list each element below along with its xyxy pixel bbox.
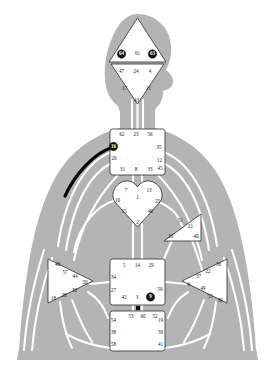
gate-14-label: 14	[135, 262, 141, 268]
gate-1[interactable]: 1	[136, 194, 139, 200]
gate-42-label: 42	[121, 294, 127, 300]
gate-55[interactable]: 55	[207, 293, 213, 299]
gate-20-label: 20	[111, 155, 117, 161]
gate-15[interactable]: 15	[121, 208, 127, 214]
gate-31[interactable]: 31	[120, 166, 126, 172]
gate-61[interactable]: 61	[135, 50, 141, 56]
bodygraph-chart: 6461634724417114362235616352012453183371…	[0, 0, 275, 386]
gate-33-label: 33	[147, 166, 153, 172]
gate-35-label: 35	[156, 144, 162, 150]
gate-47[interactable]: 47	[119, 68, 125, 74]
gate-19[interactable]: 19	[158, 317, 164, 323]
gate-54[interactable]: 54	[111, 317, 117, 323]
gate-51[interactable]: 51	[178, 217, 184, 223]
gate-42[interactable]: 42	[121, 294, 127, 300]
gate-21[interactable]: 21	[188, 223, 194, 229]
gate-33[interactable]: 33	[147, 166, 153, 172]
gate-9[interactable]: 9	[146, 293, 154, 301]
gate-3-label: 3	[136, 294, 139, 300]
gate-11-label: 11	[146, 85, 151, 91]
gate-36[interactable]: 36	[216, 261, 222, 267]
gate-47-label: 47	[119, 68, 125, 74]
gate-54-label: 54	[111, 317, 117, 323]
gate-56[interactable]: 56	[147, 131, 153, 137]
gate-57-label: 57	[62, 269, 68, 275]
gate-12[interactable]: 12	[157, 157, 163, 163]
gate-44[interactable]: 44	[72, 273, 78, 279]
gate-57[interactable]: 57	[62, 269, 68, 275]
gate-28-label: 28	[61, 292, 67, 298]
gate-14[interactable]: 14	[135, 262, 141, 268]
gate-7-label: 7	[125, 187, 128, 193]
gate-27-label: 27	[111, 287, 117, 293]
gate-40[interactable]: 40	[193, 233, 199, 239]
gate-10-label: 10	[115, 197, 121, 203]
gate-58[interactable]: 58	[111, 341, 117, 347]
gate-34[interactable]: 34	[111, 274, 117, 280]
gate-26[interactable]: 26	[168, 233, 174, 239]
gate-46[interactable]: 46	[148, 208, 154, 214]
gate-18-label: 18	[51, 295, 57, 301]
gate-50[interactable]: 50	[82, 279, 88, 285]
gate-23-label: 23	[133, 131, 139, 137]
gate-17[interactable]: 17	[122, 85, 128, 91]
gate-39-label: 39	[158, 329, 164, 335]
gate-39[interactable]: 39	[158, 329, 164, 335]
gate-44-label: 44	[72, 273, 78, 279]
gate-37[interactable]: 37	[196, 273, 202, 279]
gate-45-label: 45	[157, 165, 163, 171]
gate-49[interactable]: 49	[200, 285, 206, 291]
gate-15-label: 15	[121, 208, 127, 214]
gate-11[interactable]: 11	[146, 85, 151, 91]
gate-41[interactable]: 41	[158, 341, 164, 347]
gate-4[interactable]: 4	[149, 68, 152, 74]
gate-53[interactable]: 53	[128, 313, 134, 319]
gate-20[interactable]: 20	[111, 155, 117, 161]
gate-64[interactable]: 64	[117, 50, 125, 58]
gate-29[interactable]: 29	[148, 262, 154, 268]
gate-2[interactable]: 2	[136, 219, 139, 225]
gate-41-label: 41	[158, 341, 164, 347]
gate-32[interactable]: 32	[72, 287, 78, 293]
gate-17-label: 17	[122, 85, 128, 91]
gate-16[interactable]: 16	[109, 142, 117, 150]
gate-28[interactable]: 28	[61, 292, 67, 298]
gate-23[interactable]: 23	[133, 131, 139, 137]
gate-38[interactable]: 38	[111, 329, 117, 335]
gate-7[interactable]: 7	[125, 187, 128, 193]
gate-60-label: 60	[140, 313, 146, 319]
gate-62[interactable]: 62	[119, 131, 125, 137]
gate-27[interactable]: 27	[111, 287, 117, 293]
gate-2-label: 2	[136, 219, 139, 225]
gate-35[interactable]: 35	[156, 144, 162, 150]
gate-18[interactable]: 18	[51, 295, 57, 301]
gate-24[interactable]: 24	[133, 68, 139, 74]
gate-5[interactable]: 5	[123, 262, 126, 268]
gate-62-label: 62	[119, 131, 125, 137]
gate-37-label: 37	[196, 273, 202, 279]
gate-8[interactable]: 8	[135, 166, 138, 172]
gate-58-label: 58	[111, 341, 117, 347]
gate-3[interactable]: 3	[136, 294, 139, 300]
gate-4-label: 4	[149, 68, 152, 74]
gate-45[interactable]: 45	[157, 165, 163, 171]
gate-5-label: 5	[123, 262, 126, 268]
gate-10[interactable]: 10	[115, 197, 121, 203]
gate-9-label: 9	[149, 293, 152, 299]
gate-13[interactable]: 13	[146, 187, 152, 193]
gate-6[interactable]: 6	[188, 281, 191, 287]
gate-60[interactable]: 60	[140, 313, 146, 319]
gate-43[interactable]: 43	[134, 97, 140, 103]
gate-22[interactable]: 22	[205, 268, 211, 274]
gate-63[interactable]: 63	[148, 50, 156, 58]
gate-48[interactable]: 48	[55, 261, 61, 267]
gate-59-label: 59	[157, 286, 163, 292]
gate-25[interactable]: 25	[155, 198, 161, 204]
gate-59[interactable]: 59	[157, 286, 163, 292]
gate-26-label: 26	[168, 233, 174, 239]
gate-22-label: 22	[205, 268, 211, 274]
gate-55-label: 55	[207, 293, 213, 299]
gate-50-label: 50	[82, 279, 88, 285]
gate-30[interactable]: 30	[217, 297, 223, 303]
gate-12-label: 12	[157, 157, 163, 163]
